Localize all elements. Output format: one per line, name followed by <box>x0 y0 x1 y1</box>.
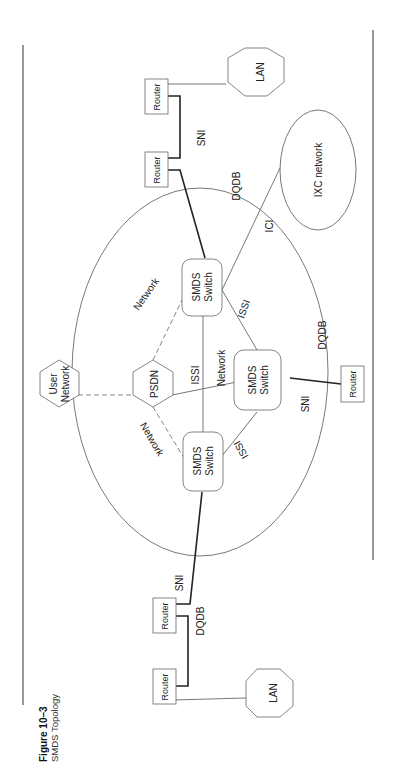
network-top-label: Network <box>131 275 162 312</box>
sni-top-label: SNI <box>196 130 207 147</box>
dqdb-top-label: DQDB <box>231 171 242 200</box>
svg-text:Network: Network <box>60 365 71 403</box>
figure-caption: Figure 10–3 SMDS Topology <box>38 694 60 762</box>
svg-text:Router: Router <box>152 156 162 183</box>
router-bottom-outer: Router <box>153 669 176 704</box>
issi-top-right-link <box>222 290 257 350</box>
lan-top-label: LAN <box>255 62 266 81</box>
smds-topology-diagram: Figure 10–3 SMDS Topology IXC network LA… <box>0 0 399 766</box>
sni-top-link <box>168 170 205 258</box>
router-right: Router <box>341 366 364 402</box>
psdn-top-switch-dashed-link <box>153 300 182 360</box>
sni-right-label: SNI <box>300 396 311 413</box>
lan-bottom-link <box>173 698 246 700</box>
svg-text:Router: Router <box>152 83 162 110</box>
network-middle-label: Network <box>216 349 227 387</box>
smds-switch-bottom: SMDS Switch <box>183 432 223 491</box>
svg-text:SMDS: SMDS <box>192 446 203 475</box>
svg-text:Switch: Switch <box>203 272 214 301</box>
svg-text:PSDN: PSDN <box>149 370 160 398</box>
network-bottom-label: Network <box>138 421 166 459</box>
svg-text:SMDS: SMDS <box>191 272 202 301</box>
smds-switch-right: SMDS Switch <box>234 350 281 410</box>
figure-number: Figure 10–3 <box>38 706 49 762</box>
svg-text:SMDS: SMDS <box>247 365 258 394</box>
dqdb-top-link <box>168 96 180 158</box>
issi-bottom-right-label: ISSI <box>231 439 250 461</box>
svg-text:Router: Router <box>348 370 358 397</box>
issi-middle-label: ISSI <box>190 366 201 385</box>
figure-title: SMDS Topology <box>49 694 60 762</box>
sni-right-link <box>290 378 341 384</box>
lan-bottom-label: LAN <box>268 683 279 702</box>
smds-switch-top: SMDS Switch <box>182 259 222 316</box>
ixc-network-label: IXC network <box>313 142 324 197</box>
lan-bottom-node: LAN <box>246 669 293 717</box>
svg-text:Router: Router <box>160 673 170 700</box>
svg-text:Switch: Switch <box>204 446 215 475</box>
svg-text:Switch: Switch <box>259 365 270 394</box>
dqdb-bottom-label: DQDB <box>195 606 206 635</box>
dqdb-right-label: DQDB <box>317 320 328 349</box>
sni-bottom-label: SNI <box>174 575 185 592</box>
svg-text:User: User <box>48 373 59 395</box>
psdn-node: PSDN <box>133 360 173 407</box>
router-top-inner: Router <box>145 152 168 187</box>
router-bottom-inner: Router <box>153 598 176 633</box>
lan-top-node: LAN <box>228 48 284 96</box>
ici-label: ICI <box>264 220 275 233</box>
router-top-outer: Router <box>145 79 168 114</box>
svg-text:Router: Router <box>160 602 170 629</box>
issi-top-right-label: ISSI <box>235 298 252 320</box>
